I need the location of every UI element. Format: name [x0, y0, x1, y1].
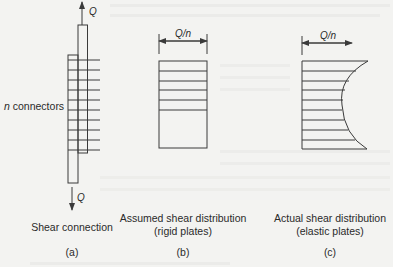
connectors-label: n connectors: [4, 100, 64, 112]
nonuniform-distribution-shape: [302, 61, 368, 149]
force-label-top: Q: [89, 6, 97, 17]
force-label-bottom: Q: [77, 192, 85, 203]
panel-b-caption: Assumed shear distribution: [120, 212, 247, 224]
panel-c-tag: (c): [324, 246, 336, 258]
panel-c-actual-distribution: Q/n Actual shear distribution (elastic p…: [274, 30, 386, 258]
panel-b-tag: (b): [177, 246, 190, 258]
shear-distribution-figure: Q n connectors Q Shear connection (a): [0, 0, 393, 267]
inner-plate: [78, 25, 88, 153]
outer-plate: [68, 55, 78, 183]
panel-a-shear-connection: Q n connectors Q Shear connection (a): [4, 2, 113, 258]
dimension-label: Q/n: [175, 28, 192, 39]
dimension-label: Q/n: [320, 30, 337, 41]
uniform-distribution-block: [159, 61, 207, 148]
connectors: [68, 60, 100, 150]
panel-c-caption-sub: (elastic plates): [296, 225, 364, 237]
panel-b-assumed-distribution: Q/n Assumed shear distribution (rigid pl…: [120, 28, 247, 258]
panel-a-caption: Shear connection: [31, 221, 113, 233]
panel-c-caption: Actual shear distribution: [274, 212, 386, 224]
panel-a-tag: (a): [66, 246, 79, 258]
panel-b-caption-sub: (rigid plates): [154, 225, 212, 237]
